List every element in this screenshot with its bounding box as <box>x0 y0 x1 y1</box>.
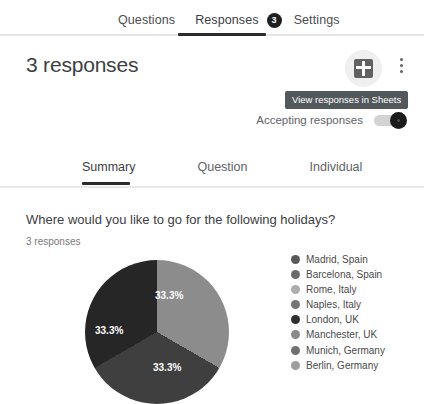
tab-individual[interactable]: Individual <box>298 156 375 178</box>
page-title: 3 responses <box>26 53 138 77</box>
pie-slice-label-2: 33.3% <box>153 362 181 373</box>
legend-item-label: London, UK <box>306 314 359 325</box>
sheets-tooltip: View responses in Sheets <box>285 91 408 109</box>
question-title: Where would you like to go for the follo… <box>26 212 335 227</box>
tab-questions-label: Questions <box>118 13 175 27</box>
more-dot-3 <box>400 70 403 73</box>
top-tab-list: Questions Responses 3 Settings <box>108 8 350 32</box>
legend-item-label: Munich, Germany <box>306 345 385 356</box>
legend-color-dot <box>291 285 300 294</box>
tab-question[interactable]: Question <box>185 156 259 178</box>
legend-item-label: Barcelona, Spain <box>306 269 382 280</box>
legend-color-dot <box>291 361 300 370</box>
tab-responses-label: Responses <box>195 13 258 27</box>
summary-divider <box>0 186 424 188</box>
accepting-responses-label: Accepting responses <box>256 114 363 126</box>
summary-tab-list: Summary Question Individual <box>70 156 374 178</box>
legend-item: Rome, Italy <box>291 283 385 295</box>
toggle-knob <box>390 112 407 129</box>
tab-individual-label: Individual <box>310 160 363 174</box>
tab-responses-active-indicator <box>178 33 266 36</box>
legend-color-dot <box>291 315 300 324</box>
tab-responses[interactable]: Responses <box>185 8 268 32</box>
tab-summary-active-indicator <box>82 182 130 185</box>
legend-color-dot <box>291 255 300 264</box>
pie-chart: 33.3% 33.3% 33.3% <box>85 260 229 404</box>
more-dot-2 <box>400 64 403 67</box>
chart-legend: Madrid, SpainBarcelona, SpainRome, Italy… <box>291 253 385 371</box>
sheets-icon <box>354 59 373 78</box>
tab-responses-group: Responses 3 <box>185 8 283 32</box>
tab-question-label: Question <box>197 160 247 174</box>
legend-item-label: Rome, Italy <box>306 284 357 295</box>
question-response-count: 3 responses <box>26 236 80 247</box>
legend-color-dot <box>291 330 300 339</box>
legend-color-dot <box>291 346 300 355</box>
tab-settings[interactable]: Settings <box>284 8 350 32</box>
legend-item: Munich, Germany <box>291 344 385 356</box>
legend-item-label: Madrid, Spain <box>306 254 368 265</box>
tab-settings-label: Settings <box>294 13 340 27</box>
tab-summary-label: Summary <box>82 160 135 174</box>
summary-tab-bar: Summary Question Individual <box>0 150 424 190</box>
legend-item: Manchester, UK <box>291 329 385 341</box>
more-dot-1 <box>400 58 403 61</box>
tab-questions[interactable]: Questions <box>108 8 185 32</box>
accepting-responses-toggle[interactable] <box>374 112 408 128</box>
more-vert-icon[interactable] <box>394 58 410 78</box>
legend-item: London, UK <box>291 314 385 326</box>
legend-item: Madrid, Spain <box>291 253 385 265</box>
tab-summary[interactable]: Summary <box>70 156 147 178</box>
legend-item-label: Naples, Italy <box>306 299 361 310</box>
legend-item: Naples, Italy <box>291 299 385 311</box>
legend-item: Barcelona, Spain <box>291 268 385 280</box>
responses-count-badge: 3 <box>267 13 282 28</box>
legend-item-label: Berlin, Germany <box>306 360 378 371</box>
legend-item-label: Manchester, UK <box>306 329 377 340</box>
legend-color-dot <box>291 300 300 309</box>
pie-slice-label-3: 33.3% <box>95 325 123 336</box>
view-in-sheets-button[interactable] <box>345 50 382 87</box>
pie-slice-label-1: 33.3% <box>155 290 183 301</box>
legend-item: Berlin, Germany <box>291 359 385 371</box>
legend-color-dot <box>291 270 300 279</box>
